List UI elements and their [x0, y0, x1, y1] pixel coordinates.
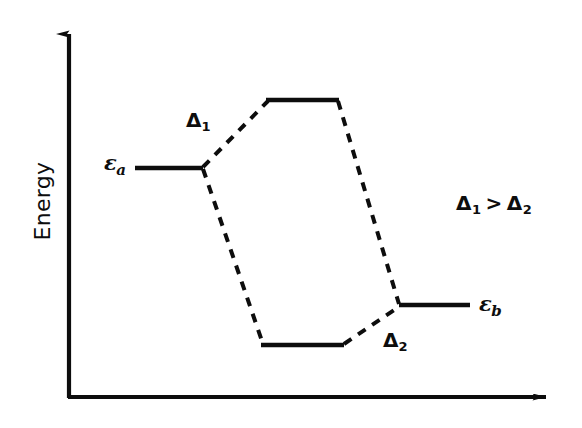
connector-a-to-lower — [203, 169, 263, 344]
gap-label-delta-2: Δ2 — [383, 330, 408, 353]
connector-group — [203, 101, 400, 344]
levels-group — [135, 100, 470, 345]
epsilon-b-subscript: b — [491, 302, 502, 320]
delta-1-subscript: 1 — [201, 119, 210, 134]
delta-2-base: Δ — [383, 328, 398, 352]
inequality-right-subscript: 2 — [523, 202, 533, 217]
delta-1-base: Δ — [186, 108, 201, 132]
epsilon-b-base: ε — [479, 291, 492, 316]
level-label-epsilon-a: εa — [104, 152, 126, 178]
epsilon-a-subscript: a — [116, 161, 126, 179]
inequality-left-subscript: 1 — [472, 202, 482, 217]
annotation-inequality: Δ1>Δ2 — [456, 193, 532, 216]
axis-label-y: Energy — [32, 151, 54, 251]
level-label-epsilon-b: εb — [479, 293, 502, 319]
gap-label-delta-1: Δ1 — [186, 110, 211, 133]
connector-a-to-upper — [203, 101, 268, 167]
inequality-left-base: Δ — [456, 191, 472, 215]
inequality-right-base: Δ — [507, 191, 523, 215]
energy-level-diagram: Energy εa εb Δ1 Δ2 Δ1>Δ2 — [0, 0, 582, 428]
delta-2-subscript: 2 — [398, 339, 407, 354]
inequality-relation-symbol: > — [486, 191, 503, 215]
connector-upper-to-b — [338, 101, 399, 304]
epsilon-a-base: ε — [104, 150, 117, 175]
